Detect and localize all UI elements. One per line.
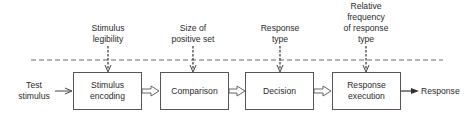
output-arrow-icon — [401, 88, 419, 94]
svg-text:type: type — [358, 34, 374, 44]
stage-label: encoding — [90, 91, 125, 101]
factor-arrow-icon — [105, 46, 111, 72]
svg-text:positive set: positive set — [172, 34, 216, 44]
svg-text:Response: Response — [261, 23, 300, 33]
flow-arrow-icon — [229, 86, 245, 96]
stage-decision: Decision — [246, 73, 314, 110]
stage-stimulus-encoding: Stimulus encoding — [74, 73, 142, 110]
factor-stimulus-legibility: Stimulus legibility — [92, 23, 125, 44]
stage-model-diagram: Test stimulus Stimulus encoding Stimulus… — [0, 0, 468, 117]
factor-relative-frequency-of-response-type: Relative frequency of response type — [344, 1, 389, 44]
svg-text:legibility: legibility — [93, 34, 124, 44]
factor-arrow-icon — [190, 46, 196, 72]
flow-arrow-icon — [314, 86, 331, 96]
svg-text:stimulus: stimulus — [18, 91, 50, 101]
factor-arrow-icon — [363, 46, 369, 72]
output-label: Response — [421, 86, 460, 96]
svg-text:Stimulus: Stimulus — [92, 23, 125, 33]
stage-label: Decision — [263, 86, 296, 96]
svg-text:Relative: Relative — [350, 1, 381, 11]
stage-comparison: Comparison — [161, 73, 229, 110]
stage-response-execution: Response execution — [333, 73, 401, 110]
factor-arrow-icon — [277, 46, 283, 72]
stage-label: Response — [347, 80, 386, 90]
svg-text:frequency: frequency — [347, 12, 385, 22]
svg-text:type: type — [272, 34, 288, 44]
svg-text:of response: of response — [344, 23, 389, 33]
stage-label: execution — [348, 91, 385, 101]
svg-text:Size of: Size of — [180, 23, 207, 33]
svg-text:Test: Test — [26, 80, 42, 90]
input-label: Test stimulus — [18, 80, 50, 101]
stage-label: Comparison — [171, 86, 218, 96]
stage-label: Stimulus — [91, 80, 124, 90]
factor-response-type: Response type — [261, 23, 300, 44]
flow-arrow-icon — [142, 86, 159, 96]
factor-size-of-positive-set: Size of positive set — [172, 23, 216, 44]
input-arrow-icon — [55, 88, 72, 94]
